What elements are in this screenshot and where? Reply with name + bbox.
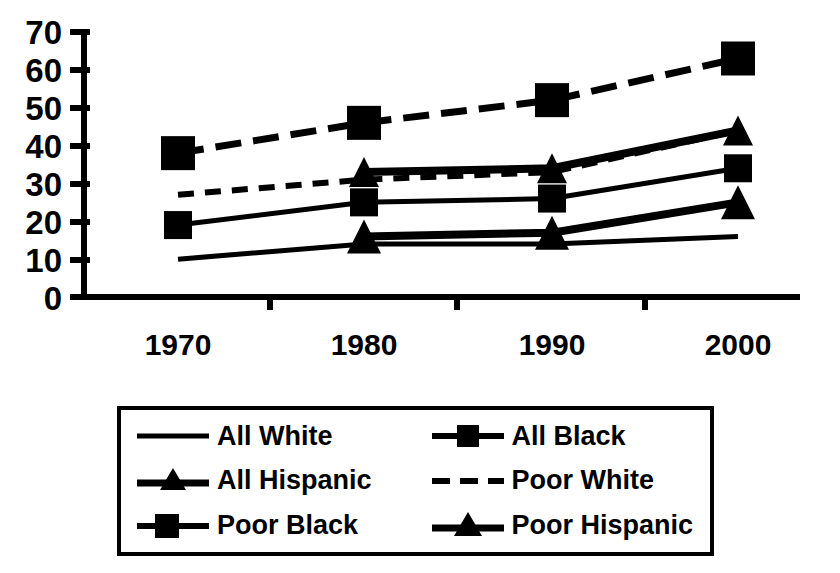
- legend-symbol-line-square: [430, 421, 506, 451]
- legend-item-poor-black: Poor Black: [121, 503, 416, 548]
- series-line: [178, 59, 738, 154]
- chart-figure: 70 60 50 40 30 20 10 0: [0, 0, 840, 573]
- marker-square: [721, 42, 755, 76]
- legend-symbol-line-solid-thin: [135, 421, 211, 451]
- legend-symbol-line-square-large: [135, 511, 211, 541]
- y-axis-tick-labels: 70 60 50 40 30 20 10 0: [25, 14, 62, 317]
- x-tick-label: 1970: [145, 328, 212, 361]
- marker-square: [161, 136, 195, 170]
- legend-label: Poor Black: [217, 512, 358, 539]
- y-tick-label: 40: [25, 128, 62, 165]
- series-poor-black: [161, 42, 755, 171]
- series-line: [178, 236, 738, 259]
- marker-square: [347, 106, 381, 140]
- y-tick-label: 10: [25, 242, 62, 279]
- x-axis-tick-labels: 1970 1980 1990 2000: [145, 328, 772, 361]
- y-tick-label: 30: [25, 166, 62, 203]
- marker-square: [350, 188, 378, 216]
- series-all-white: [178, 236, 738, 259]
- marker-square: [164, 211, 192, 239]
- marker-square: [538, 185, 566, 213]
- legend-symbol-line-triangle-large: [430, 511, 506, 541]
- legend-item-all-black: All Black: [416, 414, 711, 459]
- legend-label: Poor White: [512, 467, 655, 494]
- y-tick-label: 20: [25, 204, 62, 241]
- legend-label: All Hispanic: [217, 467, 372, 494]
- x-tick-label: 1990: [519, 328, 586, 361]
- y-tick-label: 0: [44, 280, 62, 317]
- y-tick-label: 70: [25, 14, 62, 51]
- legend-label: All Black: [512, 423, 626, 450]
- marker-square: [535, 83, 569, 117]
- legend-symbol-line-dashed: [430, 466, 506, 496]
- legend-label: All White: [217, 423, 333, 450]
- x-tick-label: 2000: [705, 328, 772, 361]
- legend-symbol-line-triangle: [135, 466, 211, 496]
- legend-item-poor-hispanic: Poor Hispanic: [416, 503, 711, 548]
- legend-item-all-hispanic: All Hispanic: [121, 459, 416, 504]
- legend-label: Poor Hispanic: [512, 512, 694, 539]
- legend-item-all-white: All White: [121, 414, 416, 459]
- legend-item-poor-white: Poor White: [416, 459, 711, 504]
- chart-legend: All White All Black All Hispanic: [117, 406, 714, 556]
- x-tick-label: 1980: [331, 328, 398, 361]
- y-tick-label: 50: [25, 90, 62, 127]
- data-series-layer: [161, 42, 755, 260]
- marker-square: [724, 154, 752, 182]
- y-tick-label: 60: [25, 52, 62, 89]
- plot-area: 70 60 50 40 30 20 10 0: [0, 0, 840, 380]
